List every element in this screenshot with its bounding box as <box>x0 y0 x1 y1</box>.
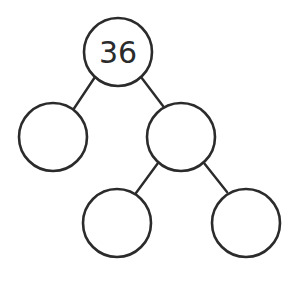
edge-root-left <box>73 77 95 110</box>
node-right-left <box>83 189 151 257</box>
node-left <box>19 103 87 171</box>
factor-tree-diagram: 36 <box>0 0 292 285</box>
node-root-label: 36 <box>99 35 137 70</box>
node-right <box>147 103 215 171</box>
node-root: 36 <box>84 18 152 86</box>
edge-root-right <box>141 77 163 106</box>
node-right-right <box>212 189 280 257</box>
edge-right-rightleft <box>136 163 158 193</box>
edge-right-rightright <box>204 163 227 192</box>
